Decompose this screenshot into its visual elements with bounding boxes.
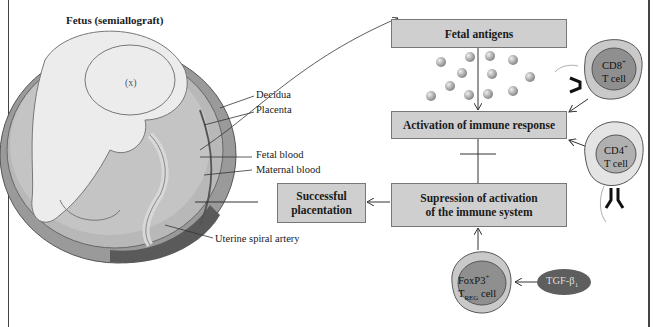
box-successful-placentation: Successful placentation (277, 183, 366, 223)
box-placentation-line2: placentation (291, 203, 352, 217)
label-uterine-spiral-artery: Uterine spiral artery (215, 233, 300, 244)
box-suppression-line1: Supression of activation (420, 191, 537, 205)
box-fetal-antigens-label: Fetal antigens (445, 27, 514, 41)
cd4-t-cell (585, 122, 643, 222)
treg-cell-label: FoxP3+ TREG cell (458, 271, 508, 305)
fetus-illustration: (x) (0, 31, 236, 263)
box-activation-immune-response: Activation of immune response (391, 111, 567, 139)
box-suppression-line2: of the immune system (426, 205, 533, 219)
diagram-title: Fetus (semiallograft) (66, 14, 163, 26)
label-decidua: Decidua (256, 89, 291, 100)
label-fetal-blood: Fetal blood (256, 149, 304, 160)
fetal-antigen-particles (426, 51, 535, 101)
label-placenta: Placenta (256, 104, 292, 115)
box-suppression: Supression of activation of the immune s… (391, 183, 567, 227)
box-placentation-line1: Successful (296, 189, 346, 203)
box-activation-label: Activation of immune response (403, 118, 555, 132)
label-maternal-blood: Maternal blood (256, 164, 320, 175)
cd4-cell-label: CD4+ T cell (598, 141, 634, 170)
box-fetal-antigens: Fetal antigens (391, 19, 567, 48)
cd8-cell-label: CD8+ T cell (596, 56, 632, 85)
svg-text:(x): (x) (125, 77, 137, 89)
tgf-beta-label: TGF-β1 (546, 275, 578, 289)
